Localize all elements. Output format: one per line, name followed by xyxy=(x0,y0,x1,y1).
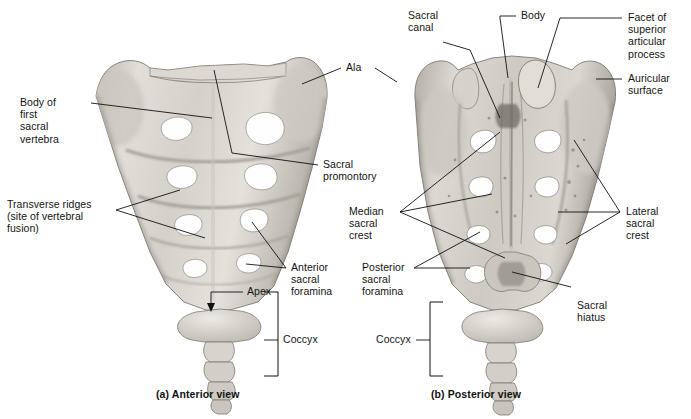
label-posterior-sacral-foramina: Posterior sacral foramina xyxy=(362,261,404,298)
label-lateral-sacral-crest: Lateral sacral crest xyxy=(626,205,658,242)
label-coccyx-posterior: Coccyx xyxy=(376,333,411,345)
figure-canvas: Body of first sacral vertebra Transverse… xyxy=(0,0,691,419)
bracket-coccyx-posterior xyxy=(430,302,443,376)
label-auricular-surface: Auricular surface xyxy=(628,72,670,96)
caption-anterior-view: (a) Anterior view xyxy=(156,388,240,400)
anterior-sacrum-bone xyxy=(90,55,335,414)
label-sacral-hiatus: Sacral hiatus xyxy=(577,299,607,323)
label-transverse-ridges: Transverse ridges (site of vertebral fus… xyxy=(7,198,92,235)
label-median-sacral-crest: Median sacral crest xyxy=(349,205,384,242)
label-apex: Apex xyxy=(247,285,271,297)
label-body: Body xyxy=(521,9,545,21)
label-sacral-canal: Sacral canal xyxy=(408,9,438,33)
label-sacral-promontory: Sacral promontory xyxy=(323,158,377,182)
label-facet-of-superior-articular-process: Facet of superior articular process xyxy=(628,11,666,60)
bracket-coccyx-anterior xyxy=(264,292,278,376)
label-body-of-first-sacral-vertebra: Body of first sacral vertebra xyxy=(20,96,59,145)
caption-posterior-view: (b) Posterior view xyxy=(431,388,521,400)
label-anterior-sacral-foramina: Anterior sacral foramina xyxy=(291,261,332,298)
leader-ala-posterior xyxy=(375,68,397,82)
posterior-sacrum-bone xyxy=(410,50,625,415)
label-ala: Ala xyxy=(346,61,361,73)
label-coccyx-anterior: Coccyx xyxy=(283,333,318,345)
